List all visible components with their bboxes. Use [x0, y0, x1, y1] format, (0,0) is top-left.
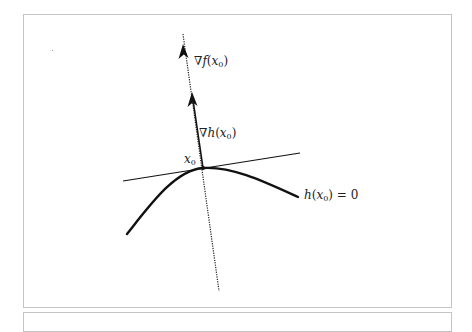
point-x0-label: x0: [184, 153, 196, 167]
constraint-curve: [127, 168, 298, 234]
grad-h-label: ∇h(x0): [199, 127, 236, 141]
point-x0-marker: [201, 166, 205, 170]
grad-f-arrowhead-icon: [179, 44, 189, 59]
grad-f-label: ∇f(x0): [194, 55, 228, 69]
constraint-label: h(x0) = 0: [304, 189, 358, 203]
grad-h-arrowhead-icon: [188, 92, 198, 107]
